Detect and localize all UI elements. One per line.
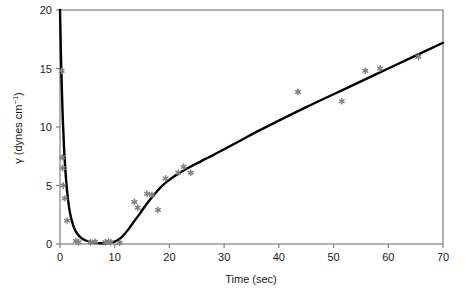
y-axis-title-unit: (dynes cm <box>12 104 24 155</box>
y-axis-title: γ (dynes cm−1) <box>11 92 24 164</box>
y-axis-title-group: γ (dynes cm−1) <box>11 92 24 164</box>
y-tick-label: 20 <box>40 4 52 16</box>
y-tick-label: 15 <box>40 63 52 75</box>
x-axis-title: Time (sec) <box>225 273 277 285</box>
x-tick-label: 10 <box>109 251 121 263</box>
plot-area-border <box>60 10 443 244</box>
y-axis-title-close-paren: ) <box>12 92 24 96</box>
y-axis-tick-labels: 05101520 <box>40 4 52 250</box>
x-tick-label: 40 <box>273 251 285 263</box>
chart-figure: 010203040506070 05101520 Time (sec) γ (d… <box>0 0 465 296</box>
y-tick-label: 5 <box>46 180 52 192</box>
x-tick-label: 0 <box>57 251 63 263</box>
y-axis-title-superscript: −1 <box>11 96 20 105</box>
y-tick-label: 0 <box>46 238 52 250</box>
x-tick-label: 50 <box>327 251 339 263</box>
x-tick-label: 30 <box>218 251 230 263</box>
plot-frame <box>60 10 443 244</box>
chart-canvas: 010203040506070 05101520 Time (sec) γ (d… <box>0 0 465 296</box>
x-tick-label: 20 <box>163 251 175 263</box>
y-tick-label: 10 <box>40 121 52 133</box>
x-tick-label: 70 <box>437 251 449 263</box>
x-axis-tick-labels: 010203040506070 <box>57 251 449 263</box>
x-tick-label: 60 <box>382 251 394 263</box>
